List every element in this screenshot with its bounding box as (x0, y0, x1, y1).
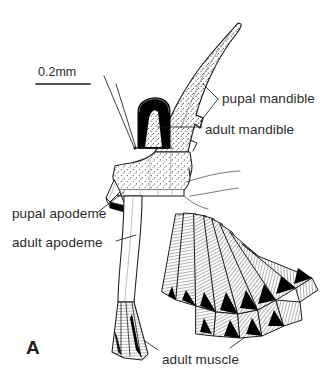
mandible-line-drawing (0, 0, 328, 384)
adult-mandible-shape (136, 98, 172, 148)
leader-adult-muscle-right (230, 338, 244, 348)
figure-panel: 0.2mm pupal mandible adult mandible pupa… (0, 0, 328, 384)
adult-apodeme-shape (118, 196, 142, 302)
adult-muscle-fan (162, 213, 318, 338)
label-pupal-mandible: pupal mandible (222, 92, 315, 106)
label-adult-muscle: adult muscle (162, 353, 239, 367)
label-adult-mandible: adult mandible (205, 123, 294, 137)
scale-bar-label: 0.2mm (38, 65, 76, 79)
thorax-contours (184, 171, 240, 209)
head-capsule (113, 152, 192, 196)
adult-muscle-left (112, 302, 148, 360)
label-pupal-apodeme: pupal apodeme (12, 207, 106, 221)
drawing-ink (36, 23, 318, 360)
leader-pupal-mandible-lower (200, 99, 218, 122)
leader-pupal-mandible-upper (203, 84, 218, 99)
setae-bristles (104, 76, 137, 150)
panel-letter: A (26, 337, 40, 359)
label-adult-apodeme: adult apodeme (12, 236, 103, 250)
